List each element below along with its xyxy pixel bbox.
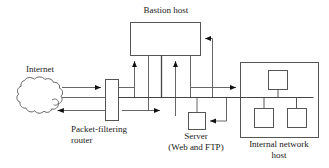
packet-filtering-router-label-line2: router [71,135,151,146]
bastion-host-box [131,23,201,56]
internal-network-label-line1: Internal network [236,139,322,150]
bastion-host-label: Bastion host [132,5,200,16]
internet-cloud-swirl [52,99,58,105]
internal-host-bottom-right [288,109,307,128]
link-to-server [210,98,227,122]
riser-router-to-bastion-foot [119,88,135,98]
network-diagram: Internet Bastion host Packet-filtering r… [0,0,329,168]
packet-filtering-router-box [106,80,119,121]
internet-cloud-shape [17,77,63,113]
server-box [189,113,206,130]
internet-label: Internet [8,64,72,75]
server-label-line2: (Web and FTP) [156,142,236,153]
server-label-line1: Server [160,131,232,142]
link-internal-to-bastion [205,39,213,98]
packet-filtering-router-label-line1: Packet-filtering [71,124,151,135]
internal-host-top [269,71,288,90]
internal-network-label-line2: host [236,150,322,161]
internal-host-bottom-left [255,109,274,128]
